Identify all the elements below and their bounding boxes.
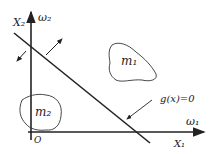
x-class-label: ω₁ [186,115,199,128]
y-axis-label: X₂ [12,16,25,29]
boundary-label-pointer [127,100,152,119]
boundary-label: g(x)=0 [160,93,195,104]
x-axis-label: X₁ [173,138,185,149]
normal-arrow-positive [46,39,62,55]
normal-arrow-negative [17,51,26,61]
decision-boundary-line [14,33,150,143]
y-class-label: ω₂ [38,11,51,24]
decision-boundary-diagram: X₂ ω₂ X₁ ω₁ O m₁ m₂ g(x)=0 [0,0,215,154]
region-m1-label: m₁ [121,54,137,68]
origin-label: O [34,135,42,145]
region-m2-label: m₂ [35,105,51,119]
